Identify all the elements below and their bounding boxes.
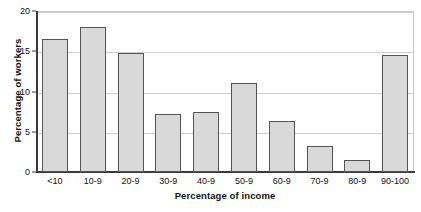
x-tick-label: 70-9 xyxy=(310,176,328,186)
bar xyxy=(269,121,295,172)
y-axis-title: Percentage of workers xyxy=(12,11,23,171)
bar xyxy=(382,55,408,172)
y-axis-line xyxy=(36,11,38,173)
bar xyxy=(42,39,68,172)
bar xyxy=(155,114,181,172)
bar xyxy=(307,146,333,172)
y-tick-mark xyxy=(32,51,36,52)
x-tick-label: 30-9 xyxy=(159,176,177,186)
bar xyxy=(80,27,106,172)
x-tick-label: 40-9 xyxy=(197,176,215,186)
gridline xyxy=(36,12,413,13)
x-tick-label: 20-9 xyxy=(121,176,139,186)
x-tick-label: 10-9 xyxy=(84,176,102,186)
bar xyxy=(231,83,257,172)
y-tick-mark xyxy=(32,131,36,132)
x-axis-title: Percentage of income xyxy=(36,190,414,201)
x-tick-label: <10 xyxy=(47,176,62,186)
y-tick-mark xyxy=(32,172,36,173)
y-tick-mark xyxy=(32,91,36,92)
bar xyxy=(193,112,219,172)
x-tick-label: 80-9 xyxy=(348,176,366,186)
bar xyxy=(344,160,370,172)
y-tick-mark xyxy=(32,11,36,12)
bar-chart-figure: 05101520 <1010-920-930-940-950-960-970-9… xyxy=(0,0,421,212)
x-tick-label: 60-9 xyxy=(273,176,291,186)
bar xyxy=(118,53,144,172)
x-tick-label: 90-100 xyxy=(381,176,409,186)
x-tick-label: 50-9 xyxy=(235,176,253,186)
